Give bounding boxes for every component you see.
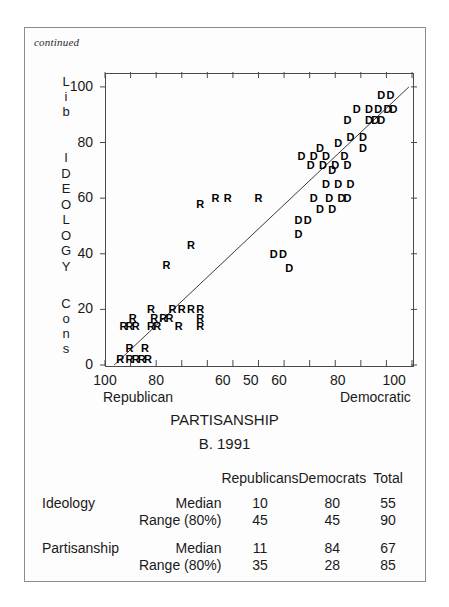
header-total: Total — [366, 470, 410, 495]
scatter-marker-r: R — [187, 240, 195, 251]
scatter-marker-d: D — [334, 179, 342, 190]
table-row: IdeologyMedian108055 — [42, 495, 410, 512]
table-row: Range (80%)352885 — [42, 557, 410, 574]
scatter-marker-d: D — [316, 204, 324, 215]
panel-caption: B. 1991 — [0, 435, 449, 452]
scatter-marker-r: R — [224, 193, 232, 204]
cell-total: 90 — [366, 512, 410, 529]
cell-total: 55 — [366, 495, 410, 512]
table-row: PartisanshipMedian118467 — [42, 540, 410, 557]
y-tick-label: 60 — [59, 189, 93, 205]
x-axis-title: PARTISANSHIP — [0, 411, 449, 428]
y-label-lib-letter: b — [57, 104, 75, 119]
cell-republicans: 11 — [221, 540, 298, 557]
y-tick-label: 0 — [59, 356, 93, 372]
scatter-marker-d: D — [344, 115, 352, 126]
scatter-marker-r: R — [169, 304, 177, 315]
cell-stat: Median — [139, 495, 222, 512]
scatter-marker-d: D — [334, 137, 342, 148]
scatter-marker-d: D — [359, 143, 367, 154]
header-blank-group — [42, 470, 139, 495]
scatter-marker-d: D — [294, 215, 302, 226]
cell-democrats: 45 — [298, 512, 366, 529]
scatter-marker-r: R — [196, 304, 204, 315]
cell-democrats: 84 — [298, 540, 366, 557]
header-blank-stat — [139, 470, 222, 495]
table-row-spacer — [42, 529, 410, 540]
cell-republicans: 35 — [221, 557, 298, 574]
cell-total: 67 — [366, 540, 410, 557]
scatter-marker-d: D — [325, 193, 333, 204]
cell-group — [42, 512, 139, 529]
scatter-marker-d: D — [285, 262, 293, 273]
scatter-marker-d: D — [279, 248, 287, 259]
x-tick-label: 80 — [136, 372, 176, 388]
y-label-cons-letter: s — [57, 341, 75, 356]
summary-statistics-table: Republicans Democrats Total IdeologyMedi… — [42, 470, 410, 574]
scatter-marker-d: D — [347, 131, 355, 142]
scatter-marker-d: D — [297, 151, 305, 162]
scatter-marker-d: D — [270, 248, 278, 259]
cell-group: Partisanship — [42, 540, 139, 557]
scatter-marker-d: D — [387, 90, 395, 101]
scatter-marker-r: R — [178, 304, 186, 315]
scatter-marker-d: D — [374, 104, 382, 115]
scatter-marker-d: D — [365, 104, 373, 115]
cell-democrats: 28 — [298, 557, 366, 574]
cell-democrats: 80 — [298, 495, 366, 512]
scatter-marker-d: D — [322, 179, 330, 190]
scatter-marker-d: D — [390, 104, 398, 115]
y-label-ideology-letter: Y — [57, 259, 75, 275]
scatter-marker-r: R — [187, 304, 195, 315]
scatter-marker-d: D — [316, 143, 324, 154]
table-row: Range (80%)454590 — [42, 512, 410, 529]
scatter-marker-d: D — [340, 151, 348, 162]
scatter-marker-d: D — [294, 229, 302, 240]
cell-stat: Range (80%) — [139, 557, 222, 574]
cell-stat: Median — [139, 540, 222, 557]
y-label-ideology-letter: L — [57, 212, 75, 228]
y-tick-label: 100 — [59, 78, 93, 94]
scatter-marker-d: D — [304, 215, 312, 226]
y-label-ideology-letter: O — [57, 228, 75, 244]
continued-note: continued — [34, 36, 79, 48]
x-tick-label: 100 — [374, 372, 414, 388]
scatter-marker-r: R — [126, 343, 134, 354]
x-axis-end-label-democratic: Democratic — [340, 389, 411, 405]
scatter-marker-d: D — [328, 204, 336, 215]
cell-stat: Range (80%) — [139, 512, 222, 529]
scatter-marker-d: D — [310, 193, 318, 204]
scatter-marker-d: D — [347, 179, 355, 190]
scatter-marker-r: R — [255, 193, 263, 204]
scatter-marker-r: R — [141, 343, 149, 354]
y-tick-label: 20 — [59, 300, 93, 316]
header-republicans: Republicans — [221, 470, 298, 495]
scatter-marker-r: R — [129, 312, 137, 323]
cell-group: Ideology — [42, 495, 139, 512]
x-tick-label: 80 — [318, 372, 358, 388]
table-header-row: Republicans Democrats Total — [42, 470, 410, 495]
y-label-ideology-letter: D — [57, 166, 75, 182]
scatter-marker-d: D — [344, 193, 352, 204]
scatter-marker-r: R — [116, 354, 124, 365]
y-tick-label: 40 — [59, 245, 93, 261]
scatter-marker-r: R — [175, 321, 183, 332]
cell-group — [42, 557, 139, 574]
scatter-marker-r: R — [212, 193, 220, 204]
cell-total: 85 — [366, 557, 410, 574]
scatter-marker-r: R — [144, 354, 152, 365]
scatter-marker-r: R — [162, 259, 170, 270]
y-label-cons-letter: n — [57, 326, 75, 341]
y-label-ideology-letter: I — [57, 150, 75, 166]
x-tick-label: 60 — [259, 372, 299, 388]
scatter-marker-r: R — [147, 304, 155, 315]
cell-republicans: 45 — [221, 512, 298, 529]
y-tick-label: 80 — [59, 134, 93, 150]
x-tick-label: 100 — [85, 372, 125, 388]
header-democrats: Democrats — [298, 470, 366, 495]
scatter-marker-d: D — [377, 90, 385, 101]
scatter-marker-d: D — [377, 115, 385, 126]
x-axis-end-label-republican: Republican — [103, 389, 173, 405]
cell-republicans: 10 — [221, 495, 298, 512]
scatter-marker-r: R — [196, 198, 204, 209]
